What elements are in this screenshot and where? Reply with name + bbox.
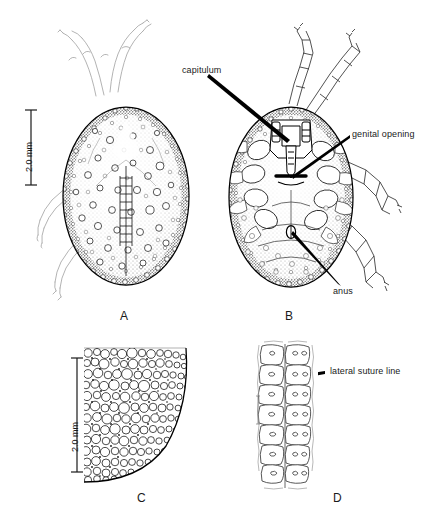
panel-letter-b: B (285, 309, 293, 323)
panel-d-lateral-suture-detail (252, 340, 318, 492)
panel-letter-a: A (120, 309, 128, 323)
panel-letter-d: D (333, 491, 342, 505)
callout-label-lateral-suture-line: lateral suture line (330, 366, 400, 376)
callout-label-capitulum: capitulum (182, 65, 221, 75)
scale-bar-c-label: 2.0 mm (70, 422, 80, 452)
callout-label-anus: anus (333, 286, 353, 296)
figure-plate: 2.0 mm 2.0 mm capitulum genital opening … (0, 0, 426, 524)
scale-bar-ab-label: 2.0 mm (24, 142, 34, 172)
callout-label-genital-opening: genital opening (352, 129, 415, 139)
panel-letter-c: C (137, 491, 146, 505)
tick-illustration (0, 0, 426, 524)
